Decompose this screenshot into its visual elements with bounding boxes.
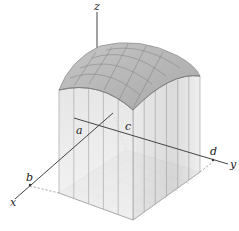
front-face [59,87,133,220]
z-axis-label: z [93,0,100,13]
bound-b-label: b [26,171,33,184]
x-axis-label: x [10,196,17,209]
bound-a-label: a [76,124,83,137]
z-axis: z [93,0,100,48]
bound-d-label: d [210,145,217,158]
y-axis-label: y [229,158,237,171]
riemann-volume-diagram: z [0,0,239,231]
bound-c-label: c [125,120,131,133]
